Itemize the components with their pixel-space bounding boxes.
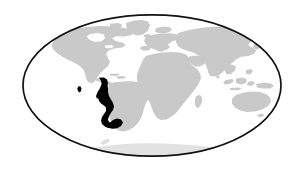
- world-distribution-map: [0, 0, 303, 171]
- world-map-svg: [0, 0, 303, 171]
